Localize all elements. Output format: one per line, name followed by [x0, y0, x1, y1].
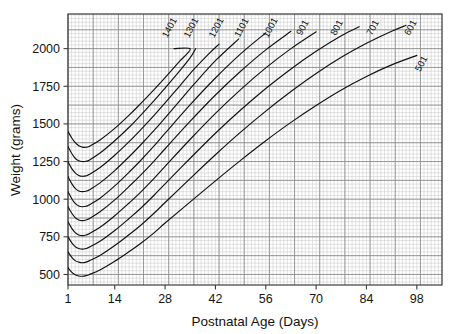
y-axis-title: Weight (grams) [8, 104, 23, 196]
y-tick-label-750: 750 [39, 230, 60, 244]
y-tick-label-1250: 1250 [32, 155, 60, 169]
y-tick-label-1500: 1500 [32, 117, 60, 131]
y-tick-label-1750: 1750 [32, 80, 60, 94]
x-tick-label-1: 1 [65, 292, 72, 306]
x-axis-title: Postnatal Age (Days) [192, 314, 319, 329]
x-tick-label-98: 98 [410, 292, 424, 306]
x-tick-label-28: 28 [158, 292, 172, 306]
x-tick-label-42: 42 [208, 292, 222, 306]
growth-chart: 14011301120111011001901801701601501 1142… [0, 0, 465, 334]
y-tick-label-500: 500 [39, 268, 60, 282]
x-tick-label-56: 56 [259, 292, 273, 306]
chart-canvas: 14011301120111011001901801701601501 1142… [0, 0, 465, 334]
x-tick-label-70: 70 [309, 292, 323, 306]
y-tick-label-2000: 2000 [32, 42, 60, 56]
x-tick-label-84: 84 [360, 292, 374, 306]
y-tick-label-1000: 1000 [32, 193, 60, 207]
x-tick-label-14: 14 [108, 292, 122, 306]
